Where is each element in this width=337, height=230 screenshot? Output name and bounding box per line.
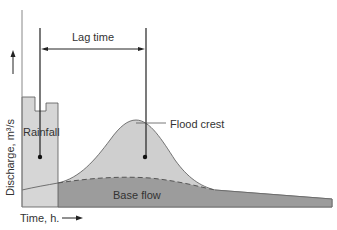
rainfall-label: Rainfall	[23, 126, 60, 138]
y-axis-label: Discharge, m³/s	[4, 118, 16, 196]
lag-arrow-right-head	[138, 47, 145, 51]
flood-crest-label: Flood crest	[170, 118, 224, 130]
hydrograph-diagram: Lag time Rainfall Flood crest Base flow …	[0, 0, 337, 230]
x-axis-arrow-icon	[76, 216, 83, 221]
lag-arrow-left-head	[41, 47, 48, 51]
x-axis-label: Time, h.	[20, 212, 59, 224]
y-axis-arrow-icon	[11, 50, 16, 57]
lag-time-label: Lag time	[72, 31, 114, 43]
rainfall-centroid-dot	[38, 155, 42, 159]
runoff-centroid-dot	[143, 155, 147, 159]
base-flow-label: Base flow	[113, 189, 161, 201]
